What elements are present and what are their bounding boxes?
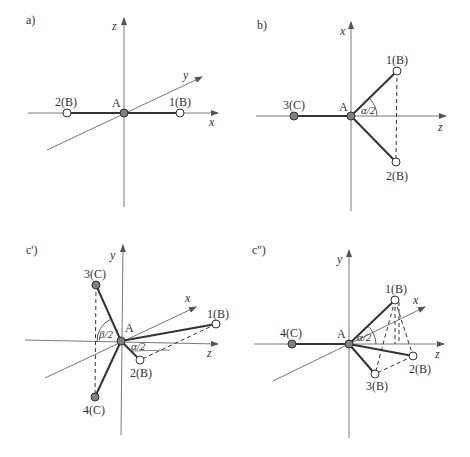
atom-label: 1(B)	[386, 53, 408, 67]
atom-label: 4(C)	[280, 326, 302, 340]
atom-2B	[63, 109, 71, 117]
atom-label: 2(B)	[409, 362, 431, 376]
bond	[95, 341, 121, 397]
atom-label: 4(C)	[83, 403, 105, 417]
x-axis-label: x	[184, 291, 191, 305]
atom-1B	[212, 320, 220, 328]
y-axis-label: y	[336, 252, 343, 266]
panel-b: b) x z α/2 A 3(C) 1(B) 2(B)	[256, 18, 446, 211]
y-axis-label: y	[182, 68, 189, 82]
y-axis-label: y	[109, 248, 116, 262]
angle-label: α/2	[361, 104, 376, 116]
atom-2B	[136, 356, 144, 364]
atom-label: 2(B)	[55, 95, 77, 109]
dashed-projection	[140, 324, 216, 360]
angle-label: α/2	[131, 340, 146, 352]
dashed-projection	[395, 300, 413, 356]
dashed-projection	[375, 300, 395, 374]
x-axis-label: x	[208, 115, 215, 129]
panel-a: a) z x y A 2(B) 1(B)	[26, 13, 218, 207]
atom-A	[117, 337, 125, 345]
atom-3C	[290, 112, 298, 120]
panel-label: c'')	[252, 243, 266, 257]
figure: a) z x y A 2(B) 1(B) b) x z α/2 A 3(C) 1…	[0, 0, 470, 457]
atom-label: 1(B)	[207, 307, 229, 321]
center-label: A	[339, 100, 348, 114]
z-axis-label: z	[111, 19, 117, 33]
atom-2B	[392, 158, 400, 166]
atom-label: 2(B)	[130, 366, 152, 380]
x-axis-label: x	[412, 293, 419, 307]
angle-label: β/2	[98, 328, 114, 340]
atom-label: 3(C)	[84, 267, 106, 281]
z-axis-label: z	[437, 120, 443, 134]
atom-1B	[176, 109, 184, 117]
bond	[121, 324, 216, 341]
atom-4C	[91, 393, 99, 401]
atom-label: 1(B)	[169, 95, 191, 109]
panel-label: a)	[26, 13, 35, 27]
atom-2B	[409, 352, 417, 360]
atom-3B	[371, 370, 379, 378]
atom-label: 1(B)	[385, 282, 407, 296]
atom-4C	[288, 340, 296, 348]
x-axis-label: x	[339, 24, 346, 38]
z-axis-label: z	[206, 346, 212, 360]
dashed-projection	[396, 71, 397, 162]
center-label: A	[125, 321, 134, 335]
atom-3C	[92, 281, 100, 289]
atom-A	[120, 109, 128, 117]
angle-label: α/2	[357, 331, 372, 343]
panel-label: b)	[257, 18, 267, 32]
atom-label: 3(C)	[283, 98, 305, 112]
bond	[349, 300, 395, 344]
atom-1B	[393, 67, 401, 75]
atom-A	[347, 112, 355, 120]
panel-c-prime: c') y z x β/2 α/2 A 3(C) 4(C) 1(B) 2(B)	[25, 243, 229, 435]
atom-1B	[391, 296, 399, 304]
atom-A	[345, 340, 353, 348]
panel-c-double-prime: c'') y z x α/2 A 4(C) 1(B) 2(B) 3(B)	[252, 243, 444, 438]
z-axis-label: z	[434, 347, 440, 361]
dashed-projection	[95, 285, 96, 397]
panel-label: c')	[26, 243, 37, 257]
dashed-projection	[375, 356, 413, 374]
center-label: A	[112, 96, 121, 110]
center-label: A	[337, 327, 346, 341]
bond	[351, 116, 396, 162]
atom-label: 2(B)	[386, 169, 408, 183]
atom-label: 3(B)	[366, 379, 388, 393]
